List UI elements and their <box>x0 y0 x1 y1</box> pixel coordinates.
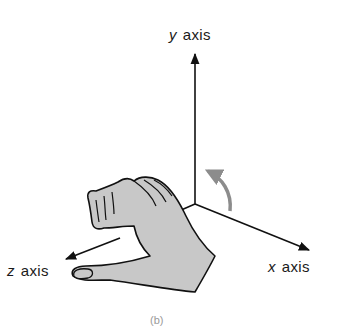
z-axis-line <box>66 238 120 259</box>
z-axis-variable: z <box>7 262 15 279</box>
x-axis-variable: x <box>268 258 276 275</box>
right-hand-icon <box>72 177 215 292</box>
z-axis-word: axis <box>21 262 49 279</box>
figure-caption: (b) <box>150 314 163 326</box>
rotation-arrow-icon <box>208 171 230 211</box>
y-axis-word: axis <box>183 26 211 43</box>
x-axis-label: xaxis <box>268 258 310 275</box>
y-axis-variable: y <box>169 26 177 43</box>
y-axis-label: yaxis <box>169 26 211 43</box>
x-axis-line <box>195 204 309 250</box>
z-axis-label: zaxis <box>7 262 49 279</box>
x-axis-word: axis <box>282 258 310 275</box>
